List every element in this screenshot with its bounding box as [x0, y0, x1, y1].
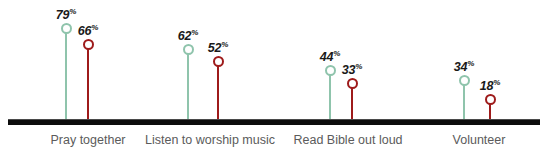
category-label-3: Volunteer — [453, 133, 506, 147]
category-label-2: Read Bible out loud — [293, 133, 402, 147]
value-label-red-3: 18% — [480, 78, 501, 93]
value-label-green-1: 62% — [178, 28, 199, 43]
marker-red-1 — [213, 56, 224, 67]
stem-red-0 — [87, 45, 89, 125]
marker-red-2 — [347, 78, 358, 89]
axis-baseline — [8, 119, 540, 125]
value-label-red-2: 33% — [342, 62, 363, 77]
lollipop-chart: 79% 66% 62% 52% 44% 33% — [0, 0, 552, 161]
category-axis: Pray together Listen to worship music Re… — [0, 133, 552, 157]
value-label-green-2: 44% — [320, 49, 341, 64]
stem-green-1 — [187, 50, 189, 125]
value-label-red-1: 52% — [208, 40, 229, 55]
category-label-0: Pray together — [50, 133, 125, 147]
marker-green-2 — [325, 65, 336, 76]
value-label-green-0: 79% — [56, 7, 77, 22]
marker-green-3 — [459, 75, 470, 86]
marker-red-0 — [83, 39, 94, 50]
category-label-1: Listen to worship music — [145, 133, 275, 147]
value-label-red-0: 66% — [78, 23, 99, 38]
stem-green-2 — [329, 71, 331, 125]
stem-green-0 — [65, 29, 67, 125]
marker-green-0 — [61, 23, 72, 34]
marker-green-1 — [183, 44, 194, 55]
plot-area: 79% 66% 62% 52% 44% 33% — [0, 0, 552, 125]
stem-red-1 — [217, 62, 219, 125]
marker-red-3 — [485, 94, 496, 105]
value-label-green-3: 34% — [454, 59, 475, 74]
